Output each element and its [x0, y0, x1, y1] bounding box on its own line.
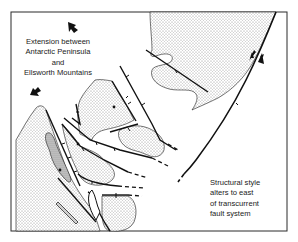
- fault-normal-1-dashed: [168, 144, 178, 150]
- structural-line-1: Structural style: [210, 178, 260, 188]
- extension-arrow-down-left-icon: [30, 87, 41, 96]
- extension-line-4: Ellsworth Mountains: [18, 68, 98, 78]
- structural-line-2: alters to east: [210, 188, 260, 198]
- fault-normal-8-dashed: [128, 195, 142, 196]
- extension-line-3: and: [18, 58, 98, 68]
- extension-annotation: Extension between Antarctic Peninsula an…: [18, 37, 98, 79]
- fault-normal-7-dashed: [118, 186, 144, 188]
- fault-normal-5-dashed: [128, 172, 148, 178]
- extension-line-2: Antarctic Peninsula: [18, 47, 98, 57]
- block-northeast: [150, 12, 276, 110]
- structural-annotation: Structural style alters to east of trans…: [210, 178, 260, 220]
- transcurrent-fault-dashed: [178, 174, 184, 182]
- extension-arrow-up-left-icon: [68, 22, 78, 33]
- strike-slip-half-arrow-down-icon: [258, 53, 264, 64]
- structural-line-3: of transcurrent: [210, 199, 260, 209]
- structural-line-4: fault system: [210, 209, 260, 219]
- block-east-central: [119, 126, 165, 157]
- extension-line-1: Extension between: [18, 37, 98, 47]
- diagram-frame: Extension between Antarctic Peninsula an…: [0, 0, 298, 242]
- fault-normal-4-dashed: [152, 158, 168, 166]
